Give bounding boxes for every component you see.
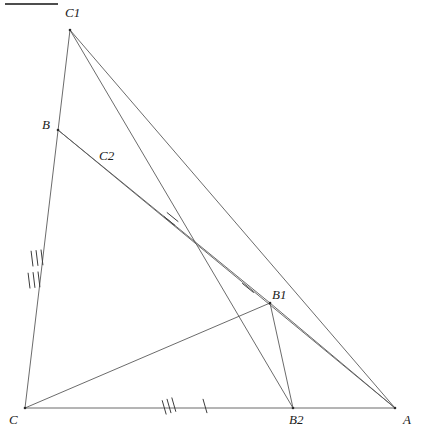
segment-B1-B2 bbox=[270, 303, 293, 408]
segment-C1-B2 bbox=[70, 30, 293, 408]
segment-B1-A bbox=[270, 303, 395, 408]
tick-CB-triple-upper-stroke bbox=[31, 251, 33, 266]
vertex-label-B1: B1 bbox=[272, 288, 286, 301]
tick-CB2-triple-stroke bbox=[172, 398, 176, 411]
vertex-label-B2: B2 bbox=[289, 413, 303, 426]
tick-CB-triple-lower-stroke bbox=[33, 273, 35, 288]
tick-CB2-single-stroke bbox=[203, 399, 207, 412]
vertex-dot-A bbox=[394, 407, 397, 410]
vertex-label-C: C bbox=[9, 413, 18, 426]
vertex-dot-B bbox=[57, 129, 60, 132]
tick-CB-triple-upper-stroke bbox=[36, 251, 38, 266]
tick-CB2-triple-stroke bbox=[162, 401, 166, 414]
vertex-dot-C bbox=[24, 407, 27, 410]
vertex-dot-B2 bbox=[292, 407, 295, 410]
tick-CB2-triple bbox=[162, 398, 175, 414]
tick-CB-triple-upper bbox=[31, 250, 43, 266]
vertex-label-C2: C2 bbox=[99, 149, 114, 162]
tick-CB-triple-lower-stroke bbox=[38, 272, 40, 287]
tick-CB-triple-lower-stroke bbox=[28, 273, 30, 288]
tick-CB2-triple-stroke bbox=[167, 399, 171, 412]
segments-group bbox=[25, 30, 395, 408]
tick-marks-group bbox=[28, 213, 253, 414]
segment-C-B1 bbox=[25, 303, 270, 408]
tick-CB-triple-lower bbox=[28, 272, 40, 288]
vertex-dot-B1 bbox=[269, 302, 272, 305]
segment-C1-A bbox=[70, 30, 395, 408]
vertex-label-C1: C1 bbox=[65, 6, 80, 19]
geometry-canvas bbox=[0, 0, 421, 438]
vertex-dot-C1 bbox=[69, 29, 72, 32]
segment-C-C1 bbox=[25, 30, 70, 408]
geometry-diagram: CABC1C2B1B2 bbox=[0, 0, 421, 438]
vertex-label-A: A bbox=[403, 413, 411, 426]
vertex-dots-group bbox=[24, 29, 397, 410]
tick-CB2-single bbox=[203, 399, 207, 412]
vertex-label-B: B bbox=[42, 118, 50, 131]
